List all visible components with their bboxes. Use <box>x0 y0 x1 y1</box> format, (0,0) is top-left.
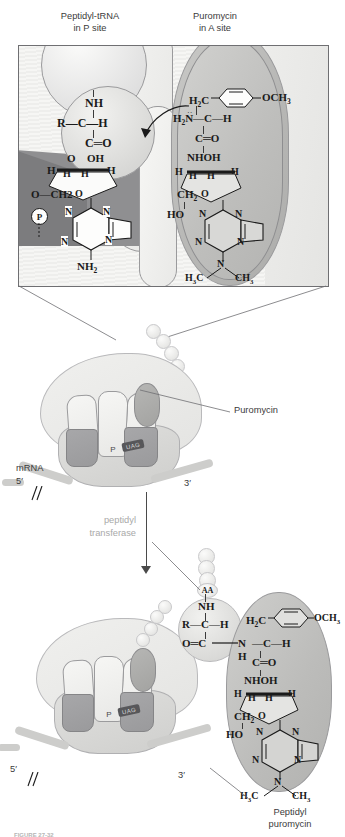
puro-ribose-h-inner-left: H <box>189 170 197 181</box>
puro-methylene: H2C <box>189 94 209 109</box>
puro-base-n2: N <box>235 208 242 219</box>
header-peptidyl-trna-line2: in P site <box>30 22 150 34</box>
three-prime-bottom: 3′ <box>178 770 185 780</box>
pt-base-n2: N <box>103 206 110 217</box>
pt-phosphate-bond <box>37 223 41 239</box>
site-e-foot-top <box>66 429 98 467</box>
pt-label-line2: transferase <box>64 527 136 540</box>
puro-c5-oh: HO <box>167 208 184 220</box>
five-prime-top: 5′ <box>16 476 23 486</box>
product-base-n4: N <box>294 754 301 765</box>
peptide-bead <box>136 633 150 647</box>
peptidyl-transferase-label: peptidyl transferase <box>64 514 136 540</box>
puro-base-n1: N <box>199 208 206 219</box>
mrna-label-top: mRNA <box>16 463 43 473</box>
product-puro-carbonyl: C═O <box>252 656 276 668</box>
three-prime-top: 3′ <box>184 478 191 488</box>
inset-panel: NH R—C—H C═O O OH H H H H O O—CH2 P <box>18 45 329 287</box>
header-puromycin-line2: in A site <box>160 22 270 34</box>
puro-ribose-h-inner-right: H <box>207 170 215 181</box>
pt-ribose-h-inner-right: H <box>81 168 89 179</box>
puro-methoxy: OCH3 <box>262 91 291 106</box>
puro-alpha-carbon: —C—H <box>193 112 232 124</box>
product-label: Peptidyl puromycin <box>240 806 340 830</box>
pt-ribose-h-inner-left: H <box>63 168 71 179</box>
product-label-leader <box>208 766 252 800</box>
product-leader-line <box>150 540 210 598</box>
site-e-foot-bottom <box>62 694 94 732</box>
product-peptide-bond-h: H <box>238 650 247 662</box>
pt-amide-nh: NH <box>85 96 103 111</box>
header-peptidyl-trna: Peptidyl-tRNA in P site <box>30 10 150 34</box>
product-label-line2: puromycin <box>240 818 340 830</box>
product-base-n2: N <box>292 726 299 737</box>
puromycin-callout-line <box>138 388 234 414</box>
five-prime-bottom: 5′ <box>10 764 17 774</box>
header-peptidyl-trna-line1: Peptidyl-tRNA <box>30 10 150 22</box>
product-ribose-h-inner-left: H <box>248 692 256 703</box>
ribosome-bottom: E P A UAG <box>22 600 202 780</box>
pt-carbonyl: C═O <box>85 136 112 151</box>
puromycin-callout-label: Puromycin <box>234 405 278 415</box>
asite-occupant-bottom <box>130 648 156 692</box>
product-ribose-h-inner-right: H <box>265 692 273 703</box>
break-marks-bottom <box>24 772 40 788</box>
pt-base-amino: NH2 <box>77 260 97 275</box>
pt-alpha-carbon: R—C—H <box>57 116 108 131</box>
pt-base-n3: N <box>61 236 68 247</box>
break-marks-top <box>28 486 44 502</box>
product-carbonyl: O═C <box>182 637 206 649</box>
product-methylene: H2C <box>246 614 266 629</box>
product-methyl-right: CH3 <box>292 790 310 803</box>
product-methoxy: OCH3 <box>314 612 340 625</box>
figure-caption: FIGURE 27-32 <box>14 832 54 837</box>
pt-base-n1: N <box>65 206 72 217</box>
product-peptide-bond <box>212 641 240 645</box>
product-c5-oh: HO <box>226 728 243 740</box>
reaction-arrow-shaft <box>146 492 147 570</box>
product-base-n3: N <box>252 754 259 765</box>
header-puromycin: Puromycin in A site <box>160 10 270 34</box>
product-alpha-carbon: R—C—H <box>182 618 228 630</box>
puro-base-n3: N <box>195 236 202 247</box>
product-amide-nh: NH <box>198 600 215 612</box>
product-base-n1: N <box>256 726 263 737</box>
peptide-bead <box>158 600 172 614</box>
figure-canvas: Peptidyl-tRNA in P site Puromycin in A s… <box>0 0 345 837</box>
mrna-stub-bottom <box>0 744 20 751</box>
product-peptide-bond-n: N <box>238 637 246 649</box>
pt-base-n4: N <box>105 234 112 245</box>
product-puro-alpha: —C—H <box>252 637 291 649</box>
puro-lone-pair: ·· <box>187 108 192 117</box>
puro-carbonyl: C═O <box>195 132 219 144</box>
pt-label-line1: peptidyl <box>64 514 136 527</box>
product-label-line1: Peptidyl <box>240 806 340 818</box>
puro-base-n4: N <box>237 236 244 247</box>
header-puromycin-line1: Puromycin <box>160 10 270 22</box>
